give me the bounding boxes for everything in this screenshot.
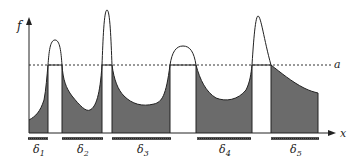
region-delta-1 xyxy=(29,65,48,133)
x-axis-label: x xyxy=(340,127,347,140)
threshold-label: a xyxy=(334,58,341,71)
svg-text:δ4: δ4 xyxy=(219,143,231,158)
svg-text:δ1: δ1 xyxy=(33,143,45,158)
shaded-regions xyxy=(29,65,318,133)
svg-text:δ3: δ3 xyxy=(137,143,149,158)
interval-labels: δ1 δ2 δ3 δ4 δ5 xyxy=(33,143,302,158)
bar-delta-2 xyxy=(62,137,103,140)
bar-delta-5 xyxy=(271,137,319,140)
bar-delta-4 xyxy=(197,137,251,140)
interval-bars xyxy=(28,137,319,140)
region-delta-2 xyxy=(62,65,102,133)
y-axis-label: f xyxy=(16,19,24,33)
svg-text:δ2: δ2 xyxy=(77,143,89,158)
bar-delta-1 xyxy=(28,137,48,140)
region-delta-4 xyxy=(196,65,252,133)
x-axis-arrow-icon xyxy=(328,130,336,136)
y-axis-arrow-icon xyxy=(26,17,32,25)
region-delta-5 xyxy=(271,65,318,133)
bar-delta-3 xyxy=(112,137,171,140)
svg-text:δ5: δ5 xyxy=(290,143,302,158)
function-threshold-diagram: f x a δ1 δ2 δ3 δ4 δ5 xyxy=(0,0,354,160)
